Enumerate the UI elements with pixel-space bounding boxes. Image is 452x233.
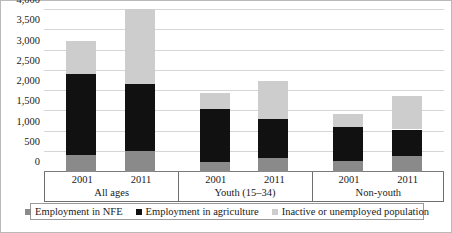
- x-group-label: Youth (15–34): [178, 187, 311, 199]
- legend-item[interactable]: Employment in NFE: [25, 206, 123, 217]
- y-tick-label: 0: [0, 157, 40, 167]
- y-tick-label: 2,000: [0, 76, 40, 86]
- bar-segment: [66, 41, 96, 73]
- bar-segment: [333, 114, 363, 127]
- y-tick-label: 500: [0, 137, 40, 147]
- bar-segment: [200, 93, 230, 109]
- plot-area: [44, 10, 444, 172]
- y-tick-label: 2,500: [0, 56, 40, 66]
- bar-segment: [125, 9, 155, 84]
- legend-label: Employment in NFE: [35, 206, 123, 217]
- y-tick-label: 3,500: [0, 15, 40, 25]
- bar-segment: [258, 81, 288, 119]
- y-axis-tick-labels: 05001,0001,5002,0002,5003,0003,5004,000: [0, 10, 40, 172]
- bar-segment: [392, 96, 422, 130]
- bar-segment: [392, 156, 422, 172]
- category-axis: 20012011All ages20012011Youth (15–34)200…: [44, 172, 444, 202]
- bar-segment: [392, 130, 422, 157]
- bar-segment: [333, 127, 363, 161]
- chart-legend: Employment in NFEEmployment in agricultu…: [30, 203, 424, 220]
- x-tick-label-year: 2001: [191, 174, 241, 186]
- bar-segment: [200, 109, 230, 162]
- legend-swatch-icon: [136, 209, 142, 215]
- bar-segment: [258, 158, 288, 172]
- legend-item[interactable]: Inactive or unemployed population: [272, 206, 429, 217]
- bar-segment: [200, 162, 230, 172]
- bar-segment: [125, 84, 155, 151]
- x-tick-label-year: 2011: [116, 174, 166, 186]
- x-group-label: All ages: [45, 187, 178, 199]
- x-group-label: Non-youth: [312, 187, 445, 199]
- x-tick-label-year: 2001: [324, 174, 374, 186]
- legend-label: Employment in agriculture: [146, 206, 259, 217]
- y-tick-label: 3,000: [0, 36, 40, 46]
- legend-item[interactable]: Employment in agriculture: [136, 206, 259, 217]
- y-tick-label: 1,500: [0, 96, 40, 106]
- chart-figure: 05001,0001,5002,0002,5003,0003,5004,000 …: [0, 0, 452, 233]
- bar-segment: [125, 151, 155, 172]
- y-tick-label: 1,000: [0, 117, 40, 127]
- x-tick-label-year: 2011: [383, 174, 433, 186]
- bar-segment: [258, 119, 288, 158]
- bar-segment: [66, 74, 96, 155]
- x-tick-label-year: 2011: [249, 174, 299, 186]
- bars-layer: [44, 10, 444, 172]
- legend-label: Inactive or unemployed population: [282, 206, 429, 217]
- x-tick-label-year: 2001: [57, 174, 107, 186]
- legend-swatch-icon: [25, 209, 31, 215]
- bar-segment: [333, 161, 363, 172]
- legend-swatch-icon: [272, 209, 278, 215]
- bar-segment: [66, 155, 96, 172]
- y-tick-label: 4,000: [0, 0, 40, 5]
